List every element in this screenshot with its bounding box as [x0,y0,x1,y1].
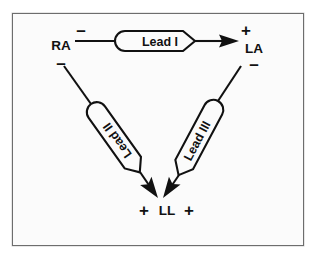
ra-label: RA [51,38,71,53]
ra-polarity-bottom-minus-sign-icon: – [56,54,65,73]
ll-label: LL [159,203,176,218]
ll-polarity-right-plus-sign-icon: + [184,201,194,220]
lead-1-label: Lead I [142,35,178,49]
lead-1-arrow-head-icon [219,35,239,48]
node-ll[interactable]: + LL + [139,201,194,220]
lead-2-arrow-head-icon [140,177,164,202]
lead-3-arrow-head-icon [157,177,180,202]
la-polarity-top-plus-sign-icon: + [241,21,251,40]
lead-2-upper-connector [64,66,91,104]
diagram-frame: Lead I Lead II [12,13,304,246]
lead-3-upper-connector [218,66,241,101]
ll-polarity-left-plus-sign-icon: + [139,201,149,220]
figure-root: Lead I Lead II [0,0,320,266]
lead-1-group[interactable]: Lead I [75,31,239,51]
einthoven-triangle-diagram: Lead I Lead II [13,14,305,247]
node-la[interactable]: + LA – [241,21,263,74]
lead-3-group[interactable]: Lead III [157,66,241,202]
lead-2-group[interactable]: Lead II [64,66,164,202]
la-polarity-bottom-minus-sign-icon: – [249,55,258,74]
node-ra[interactable]: – RA – [51,21,85,73]
ra-polarity-top-minus-sign-icon: – [76,21,85,40]
la-label: LA [245,41,263,56]
